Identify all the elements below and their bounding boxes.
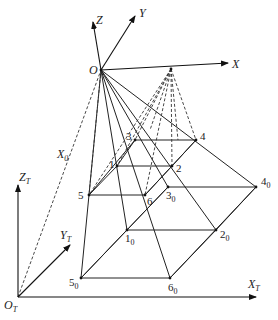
- image-point-label-6: 6: [147, 195, 153, 207]
- camera-axis-x: [101, 63, 228, 70]
- image-point-label-4: 4: [200, 130, 206, 142]
- point-marker: [167, 186, 170, 189]
- object-point-label-2: 20: [220, 228, 230, 243]
- point-marker: [170, 68, 173, 71]
- object-edge-13: [127, 187, 168, 230]
- camera-axis-y: [101, 16, 135, 70]
- target-axis-y: [18, 245, 70, 297]
- dashed-ray-6: [145, 69, 171, 195]
- object-edge-51: [81, 230, 127, 278]
- dashed-ray-3: [135, 69, 171, 140]
- object-edge-62: [170, 230, 216, 278]
- point-marker: [88, 194, 91, 197]
- point-marker: [80, 277, 83, 280]
- z-axis-label: Z: [96, 13, 103, 27]
- origin-ot-label: OT: [4, 298, 18, 314]
- origin-o-label: O: [89, 63, 98, 77]
- zt-axis-label: ZT: [19, 170, 31, 186]
- dashed-ray-2: [171, 69, 172, 166]
- image-edge-51: [89, 166, 117, 195]
- object-edge-24: [216, 187, 256, 230]
- point-marker: [215, 229, 218, 232]
- point-marker: [255, 186, 258, 189]
- point-marker: [171, 165, 174, 168]
- point-marker: [100, 69, 103, 72]
- projection-diagram: OZYXOTZTYTXTX0123456102030405060: [0, 0, 278, 320]
- point-marker: [126, 229, 129, 232]
- point-marker: [116, 165, 119, 168]
- x0-distance-line: [18, 70, 101, 297]
- point-marker: [144, 194, 147, 197]
- ray-o-1: [101, 70, 127, 230]
- x-axis-label: X: [231, 57, 240, 71]
- image-point-label-1: 1: [109, 158, 115, 170]
- object-point-label-4: 40: [261, 175, 271, 190]
- point-marker: [169, 277, 172, 280]
- point-marker: [195, 139, 198, 142]
- object-point-label-3: 30: [166, 189, 176, 204]
- image-point-label-2: 2: [176, 162, 182, 174]
- object-point-label-5: 50: [69, 276, 79, 291]
- object-point-label-1: 10: [125, 232, 135, 247]
- image-point-label-3: 3: [126, 130, 132, 142]
- y-axis-label: Y: [139, 6, 147, 20]
- image-point-label-5: 5: [78, 189, 84, 201]
- xt-axis-label: XT: [247, 277, 260, 293]
- point-marker: [134, 139, 137, 142]
- yt-axis-label: YT: [60, 228, 72, 244]
- x0-label: X0: [56, 147, 68, 163]
- object-point-label-6: 60: [168, 281, 178, 296]
